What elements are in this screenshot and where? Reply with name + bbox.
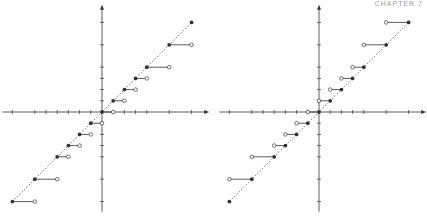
filled-point bbox=[328, 99, 332, 103]
open-point bbox=[134, 88, 138, 92]
filled-point bbox=[317, 110, 321, 114]
filled-point bbox=[190, 21, 194, 25]
filled-point bbox=[272, 155, 276, 159]
open-point bbox=[100, 121, 104, 125]
filled-point bbox=[340, 88, 344, 92]
chart-right bbox=[219, 5, 426, 212]
open-point bbox=[362, 43, 366, 47]
filled-point bbox=[284, 144, 288, 148]
open-point bbox=[284, 133, 288, 137]
filled-point bbox=[167, 43, 171, 47]
filled-point bbox=[123, 88, 127, 92]
filled-point bbox=[55, 155, 59, 159]
open-point bbox=[67, 155, 71, 159]
open-point bbox=[228, 177, 232, 181]
filled-point bbox=[362, 65, 366, 69]
filled-point bbox=[351, 77, 355, 81]
y-axis-arrow-icon bbox=[317, 5, 321, 10]
open-point bbox=[111, 110, 115, 114]
filled-point bbox=[134, 77, 138, 81]
filled-point bbox=[11, 200, 15, 204]
step-function-figure bbox=[0, 0, 427, 216]
open-point bbox=[123, 99, 127, 103]
open-point bbox=[89, 133, 93, 137]
filled-point bbox=[384, 43, 388, 47]
filled-point bbox=[228, 200, 232, 204]
open-point bbox=[295, 121, 299, 125]
filled-point bbox=[89, 121, 93, 125]
y-axis-arrow-icon bbox=[100, 5, 104, 10]
open-point bbox=[145, 77, 149, 81]
filled-point bbox=[295, 133, 299, 137]
filled-point bbox=[78, 133, 82, 137]
filled-point bbox=[306, 121, 310, 125]
open-point bbox=[340, 77, 344, 81]
open-point bbox=[167, 65, 171, 69]
filled-point bbox=[100, 110, 104, 114]
filled-point bbox=[250, 177, 254, 181]
open-point bbox=[190, 43, 194, 47]
filled-point bbox=[33, 177, 37, 181]
open-point bbox=[250, 155, 254, 159]
open-point bbox=[55, 177, 59, 181]
chart-left bbox=[2, 5, 209, 212]
open-point bbox=[306, 110, 310, 114]
open-point bbox=[33, 200, 37, 204]
filled-point bbox=[67, 144, 71, 148]
filled-point bbox=[407, 21, 411, 25]
open-point bbox=[317, 99, 321, 103]
filled-point bbox=[111, 99, 115, 103]
x-axis-arrow-icon bbox=[421, 110, 426, 114]
filled-point bbox=[145, 65, 149, 69]
open-point bbox=[272, 144, 276, 148]
open-point bbox=[351, 65, 355, 69]
open-point bbox=[384, 21, 388, 25]
x-axis-arrow-icon bbox=[204, 110, 209, 114]
open-point bbox=[328, 88, 332, 92]
open-point bbox=[78, 144, 82, 148]
